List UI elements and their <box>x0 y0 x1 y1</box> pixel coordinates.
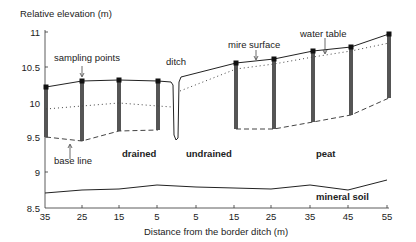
sampling-point-marker <box>387 32 392 37</box>
sampling-pipe <box>387 34 391 98</box>
x-tick-label: 45 <box>343 211 354 222</box>
sampling-point-marker <box>272 57 277 62</box>
x-tick-label: 5 <box>154 211 159 222</box>
mire-surface-line <box>46 34 389 140</box>
y-tick-label: 10.5 <box>22 62 41 73</box>
sampling-point-marker <box>44 85 49 90</box>
sampling-pipe <box>311 51 315 122</box>
undrained-label: undrained <box>186 148 232 159</box>
sampling-point-marker <box>156 79 161 84</box>
elevation-diagram: 11 10.5 10 9.5 9 8.5 35 25 15 5 5 15 25 … <box>0 0 416 242</box>
y-tick-label: 9.5 <box>27 132 40 143</box>
sampling-points-label: sampling points <box>54 52 120 63</box>
sampling-pipe <box>349 47 353 115</box>
sampling-pipe <box>117 80 121 131</box>
water-table-line-drained <box>46 103 172 109</box>
ditch-label: ditch <box>166 56 186 67</box>
sampling-point-marker <box>311 49 316 54</box>
x-tick-label: 25 <box>77 211 88 222</box>
x-tick-label: 35 <box>40 211 51 222</box>
sampling-pipe <box>44 87 48 137</box>
drained-label: drained <box>122 148 157 159</box>
water-table-line-undrained <box>180 43 389 91</box>
base-line-label: base line <box>54 155 92 166</box>
mineral-soil-label: mineral soil <box>316 191 369 202</box>
y-tick-label: 8.5 <box>27 203 40 214</box>
x-ticks: 35 25 15 5 5 15 25 35 45 55 <box>40 205 393 222</box>
sampling-point-marker <box>80 79 85 84</box>
peat-label: peat <box>316 148 336 159</box>
base-line-drained <box>46 130 158 141</box>
sampling-point-marker <box>234 61 239 66</box>
sampling-pipe <box>272 59 276 129</box>
y-axis-label: Relative elevation (m) <box>20 8 112 19</box>
x-axis-label: Distance from the border ditch (m) <box>144 226 288 237</box>
sampling-pipe <box>234 63 238 129</box>
x-tick-label: 15 <box>229 211 240 222</box>
y-tick-label: 9 <box>35 167 40 178</box>
y-tick-label: 10 <box>29 98 40 109</box>
sampling-pipe <box>80 81 84 141</box>
x-tick-label: 5 <box>193 211 198 222</box>
x-tick-label: 35 <box>305 211 316 222</box>
mire-surface-label: mire surface <box>228 39 280 50</box>
y-tick-label: 11 <box>30 27 40 38</box>
water-table-label: water table <box>299 28 346 39</box>
sampling-pipes <box>44 34 391 141</box>
x-tick-label: 55 <box>382 211 393 222</box>
sampling-point-marker <box>349 45 354 50</box>
x-tick-label: 25 <box>266 211 277 222</box>
x-tick-label: 15 <box>114 211 125 222</box>
sampling-point-marker <box>117 78 122 83</box>
